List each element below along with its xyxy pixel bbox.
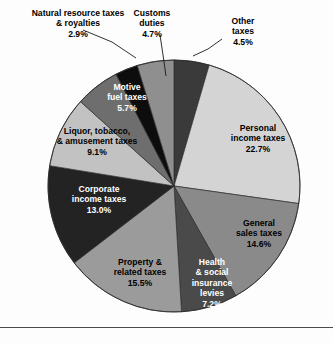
slice-label-line: 4.5% xyxy=(233,37,253,47)
pie-chart-figure: Othertaxes4.5%Personalincome taxes22.7%G… xyxy=(0,0,333,343)
slice-label-line: duties xyxy=(139,18,165,28)
leader-line-natural-resource-taxes-royalties xyxy=(83,30,136,58)
slice-label-line: Personal xyxy=(240,123,276,133)
slice-label-line: 9.1% xyxy=(87,147,107,157)
slice-label-line: Motive xyxy=(113,82,140,92)
slice-label-line: Natural resource taxes xyxy=(32,8,125,18)
slice-label-line: Property & xyxy=(118,257,162,267)
leader-line-other-taxes xyxy=(193,39,222,56)
slice-label-line: General xyxy=(243,218,275,228)
slice-label-line: insurance xyxy=(192,278,233,288)
slice-label-line: 14.6% xyxy=(247,239,272,249)
slice-label-line: Health xyxy=(199,257,225,267)
slice-label-line: 2.9% xyxy=(68,29,88,39)
slice-label-line: 4.7% xyxy=(142,29,162,39)
slice-label-line: & royalties xyxy=(56,18,100,28)
slice-label-natural-resource-taxes-royalties: Natural resource taxes& royalties2.9% xyxy=(32,8,125,39)
slice-label-line: taxes xyxy=(232,26,254,36)
slice-label-line: related taxes xyxy=(114,267,167,277)
slice-label-line: 15.5% xyxy=(128,278,153,288)
slice-label-line: 7.2% xyxy=(202,299,222,309)
pie-chart-svg: Othertaxes4.5%Personalincome taxes22.7%G… xyxy=(0,0,333,343)
slice-label-line: & social xyxy=(196,267,229,277)
slice-label-line: levies xyxy=(200,288,224,298)
slice-label-line: 13.0% xyxy=(87,205,112,215)
slice-label-other-taxes: Othertaxes4.5% xyxy=(232,16,256,47)
slice-label-line: sales taxes xyxy=(236,228,282,238)
slice-label-line: Other xyxy=(232,16,256,26)
slice-label-customs-duties: Customsduties4.7% xyxy=(134,8,171,39)
slice-label-line: Customs xyxy=(134,8,171,18)
slice-label-line: income taxes xyxy=(231,133,286,143)
slice-label-line: Liquor, tobacco, xyxy=(64,126,130,136)
slice-label-line: fuel taxes xyxy=(107,92,147,102)
slice-label-line: income taxes xyxy=(72,194,127,204)
slice-label-line: 5.7% xyxy=(117,103,137,113)
bottom-divider xyxy=(0,327,333,328)
slice-label-line: Corporate xyxy=(78,184,119,194)
slice-label-line: & amusement taxes xyxy=(57,136,138,146)
slice-label-line: 22.7% xyxy=(246,144,271,154)
